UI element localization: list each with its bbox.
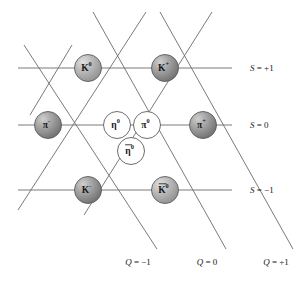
particle-node-pi0[interactable]: π0	[134, 112, 161, 139]
node-superscript-k0: 0	[89, 61, 92, 68]
particle-node-kplus[interactable]: K+	[152, 55, 179, 82]
strangeness-label-s-zero: S = 0	[250, 120, 269, 130]
node-superscript-pi0: 0	[147, 118, 150, 125]
node-superscript-eta0: 0	[117, 118, 120, 125]
node-superscript-piplus: +	[202, 118, 206, 125]
charge-value-q-minus-1: = −1	[132, 257, 151, 267]
meson-octet-diagram: K0K+π-η0π0π+η0K-K0 S = +1S = 0S = −1Q = …	[0, 0, 305, 284]
particle-node-etabar0[interactable]: η0	[118, 138, 145, 165]
strangeness-label-s-minus-1: S = −1	[250, 185, 274, 195]
charge-label-q-minus-1: Q = −1	[125, 257, 151, 267]
node-circle-piplus	[190, 112, 217, 139]
axis-labels-group: S = +1S = 0S = −1Q = −1Q = 0Q = +1	[125, 63, 289, 267]
node-superscript-kminus: -	[89, 183, 91, 190]
particle-node-piplus[interactable]: π+	[190, 112, 217, 139]
lattice-line-d-left-3	[30, 45, 72, 115]
strangeness-value-s-plus-1: = +1	[255, 63, 274, 73]
particle-node-piminus[interactable]: π-	[35, 112, 62, 139]
charge-value-q-plus-1: = +1	[270, 257, 289, 267]
node-circle-eta0	[104, 112, 131, 139]
particle-node-kminus[interactable]: K-	[75, 177, 102, 204]
strangeness-value-s-zero: = 0	[255, 120, 270, 130]
charge-label-q-plus-1: Q = +1	[263, 257, 289, 267]
lattice-line-d-right-3	[160, 12, 293, 249]
particle-node-k0[interactable]: K0	[75, 55, 102, 82]
particle-node-eta0[interactable]: η0	[104, 112, 131, 139]
charge-label-q-zero: Q = 0	[197, 257, 218, 267]
strangeness-label-s-plus-1: S = +1	[250, 63, 274, 73]
node-superscript-piminus: -	[48, 118, 50, 125]
charge-value-q-zero: = 0	[203, 257, 218, 267]
octet-weight-diagram-canvas: K0K+π-η0π0π+η0K-K0 S = +1S = 0S = −1Q = …	[0, 0, 305, 284]
strangeness-value-s-minus-1: = −1	[255, 185, 274, 195]
particle-nodes-group: K0K+π-η0π0π+η0K-K0	[35, 55, 217, 204]
node-circle-etabar0	[118, 138, 145, 165]
node-circle-pi0	[134, 112, 161, 139]
node-superscript-kplus: +	[165, 61, 169, 68]
particle-node-kbar0[interactable]: K0	[152, 177, 179, 204]
